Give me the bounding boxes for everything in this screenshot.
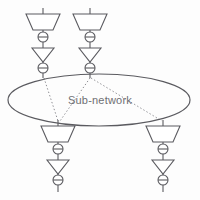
isolator-icon[interactable] bbox=[38, 32, 48, 42]
antenna-icon[interactable] bbox=[73, 14, 107, 30]
amplifier-icon[interactable] bbox=[79, 48, 101, 62]
isolator-icon[interactable] bbox=[53, 175, 63, 185]
node-bottom-right[interactable] bbox=[146, 120, 180, 192]
amplifier-icon[interactable] bbox=[32, 48, 54, 62]
node-top-left[interactable] bbox=[26, 8, 60, 78]
antenna-icon[interactable] bbox=[26, 14, 60, 30]
isolator-icon[interactable] bbox=[53, 144, 63, 154]
subnetwork-diagram: Sub-network bbox=[0, 0, 200, 200]
isolator-icon[interactable] bbox=[158, 175, 168, 185]
link-topleft-bottomleft bbox=[44, 78, 58, 121]
amplifier-icon[interactable] bbox=[47, 160, 69, 174]
isolator-icon[interactable] bbox=[158, 144, 168, 154]
antenna-icon[interactable] bbox=[146, 126, 180, 142]
antenna-icon[interactable] bbox=[41, 126, 75, 142]
diagram-canvas: Sub-network bbox=[0, 0, 200, 200]
isolator-icon[interactable] bbox=[85, 32, 95, 42]
isolator-icon[interactable] bbox=[85, 63, 95, 73]
amplifier-icon[interactable] bbox=[152, 160, 174, 174]
isolator-icon[interactable] bbox=[38, 63, 48, 73]
node-bottom-left[interactable] bbox=[41, 120, 75, 192]
node-top-right[interactable] bbox=[73, 8, 107, 78]
subnetwork-ellipse-group[interactable]: Sub-network bbox=[8, 74, 190, 126]
subnetwork-label: Sub-network bbox=[68, 94, 132, 106]
